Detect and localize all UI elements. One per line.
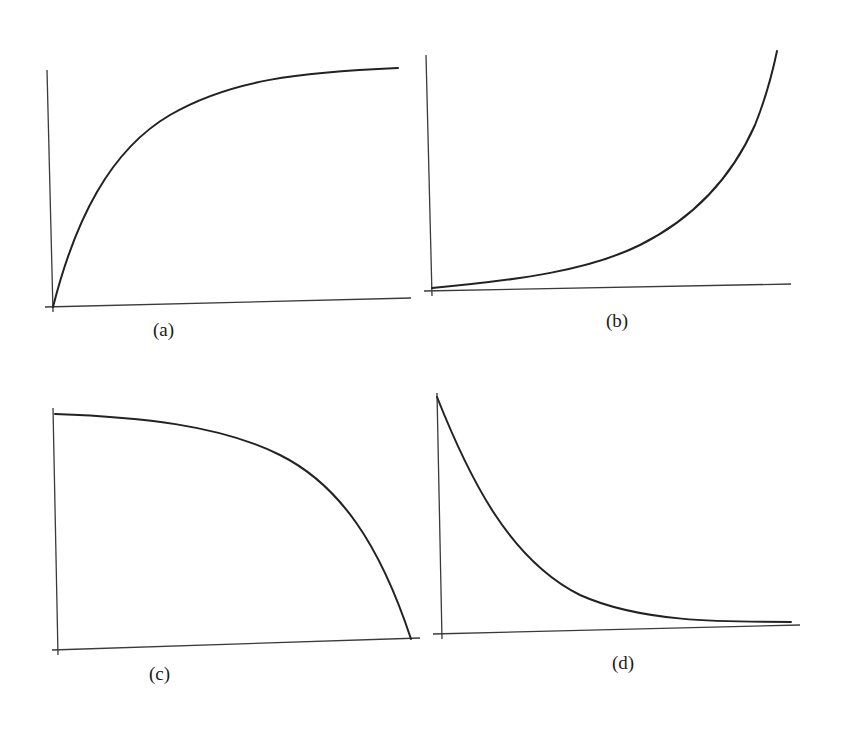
panel-b-label: (b) xyxy=(606,311,628,330)
panel-a-curve xyxy=(53,68,398,307)
panel-b xyxy=(424,51,791,296)
panel-b-x-axis xyxy=(424,284,791,291)
panel-a-label: (a) xyxy=(153,320,174,339)
panel-c-y-axis xyxy=(53,408,58,655)
panel-b-curve xyxy=(432,51,777,288)
panel-a xyxy=(45,68,411,312)
panel-c-curve xyxy=(55,414,411,639)
panel-d-label: (d) xyxy=(612,653,634,672)
panel-d xyxy=(433,393,800,639)
panel-c-x-axis xyxy=(52,638,420,650)
panel-a-x-axis xyxy=(45,298,411,307)
panel-c xyxy=(52,408,420,655)
panel-b-y-axis xyxy=(426,55,432,296)
panel-d-x-axis xyxy=(433,625,800,634)
panel-a-y-axis xyxy=(47,70,53,312)
panel-d-y-axis xyxy=(437,393,442,639)
panel-c-label: (c) xyxy=(149,664,170,683)
figure-canvas xyxy=(0,0,841,733)
panel-d-curve xyxy=(437,397,791,622)
